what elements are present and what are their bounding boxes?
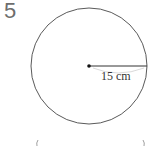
cropped-mark-right xyxy=(143,140,144,146)
radius-label: 15 cm xyxy=(101,69,131,83)
center-dot xyxy=(87,64,91,68)
circle-diagram: 15 cm xyxy=(0,0,150,146)
cropped-mark-left xyxy=(37,140,38,146)
